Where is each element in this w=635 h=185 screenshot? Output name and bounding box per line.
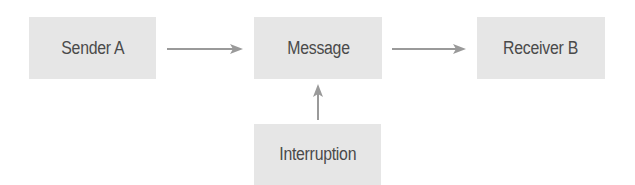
- arrow-interruption-to-message: [313, 84, 323, 120]
- message-node: Message: [254, 17, 382, 79]
- interruption-node: Interruption: [254, 124, 381, 185]
- message-label: Message: [287, 38, 349, 59]
- sender-a-label: Sender A: [61, 38, 124, 59]
- arrow-sender-to-message: [167, 44, 243, 54]
- sender-a-node: Sender A: [29, 17, 156, 79]
- interruption-label: Interruption: [279, 144, 356, 165]
- receiver-b-node: Receiver B: [477, 17, 605, 79]
- arrow-message-to-receiver: [392, 44, 466, 54]
- receiver-b-label: Receiver B: [504, 38, 579, 59]
